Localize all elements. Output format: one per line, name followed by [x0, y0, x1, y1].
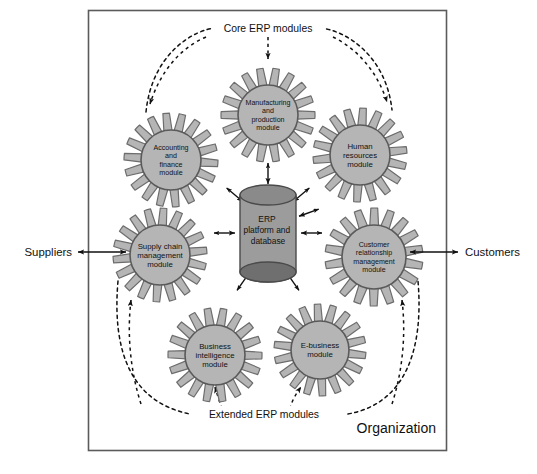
diagram-canvas: ManufacturingandproductionmoduleAccounti…	[0, 0, 537, 474]
extended-erp-modules-label: Extended ERP modules	[209, 409, 319, 420]
group-caption-extended: Extended ERP modules	[190, 406, 338, 421]
group-caption-core: Core ERP modules	[212, 20, 324, 35]
organization-label: Organization	[357, 420, 436, 436]
cylinder-label-line1: ERP	[258, 214, 276, 224]
cylinder-top-ellipse	[240, 185, 296, 205]
customers-label: Customers	[465, 246, 520, 258]
cylinder-label-line3: database	[251, 236, 286, 246]
cylinder-label-line2: platform and	[244, 225, 291, 235]
suppliers-label: Suppliers	[25, 246, 73, 258]
erp-platform-cylinder: ERP platform and database	[240, 185, 296, 282]
erp-system-diagram: ManufacturingandproductionmoduleAccounti…	[0, 0, 537, 474]
gear-label-human-resources: Humanresourcesmodule	[343, 142, 377, 169]
core-erp-modules-label: Core ERP modules	[224, 23, 313, 34]
